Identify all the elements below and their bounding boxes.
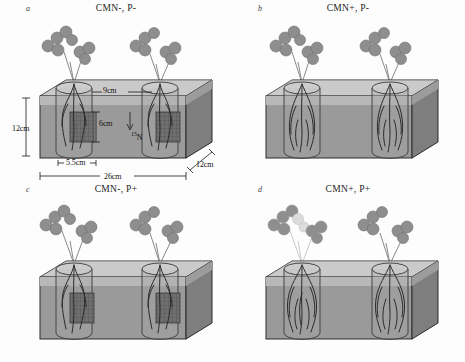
plant-left-b-leaves	[270, 26, 323, 65]
isotope-tracer-label-a: 15N	[131, 131, 143, 142]
dimension-cylinder-depth-a: 9cm	[103, 86, 116, 95]
panel-d-scene	[232, 181, 464, 362]
dimension-box-width-a: 26cm	[104, 172, 121, 181]
plant-right-c-leaves	[130, 207, 183, 244]
panel-c-scene	[0, 181, 232, 362]
plant-left-c-leaves	[40, 205, 97, 244]
panel-b: b CMN+, P-	[232, 0, 464, 181]
plant-left-a-leaves	[42, 26, 95, 65]
plant-left-d-leaves	[268, 205, 327, 244]
panel-d: d CMN+, P+	[232, 181, 464, 362]
panel-b-scene	[232, 0, 464, 181]
dimension-box-height-a: 12cm	[12, 124, 29, 133]
dimension-box-depth-a: 12cm	[196, 160, 213, 169]
panel-c: c CMN-, P+	[0, 181, 232, 362]
plant-right-d-leaves	[358, 207, 413, 244]
isotope-element: N	[137, 133, 143, 142]
dimension-mesh-bag-height-a: 6cm	[99, 119, 112, 128]
plant-right-a-leaves	[130, 28, 181, 65]
dimension-cylinder-diameter-a: 5.5cm	[66, 158, 85, 167]
plant-right-b-leaves	[360, 28, 411, 65]
figure-canvas: a CMN-, P-	[0, 0, 465, 362]
panel-a: a CMN-, P-	[0, 0, 232, 181]
